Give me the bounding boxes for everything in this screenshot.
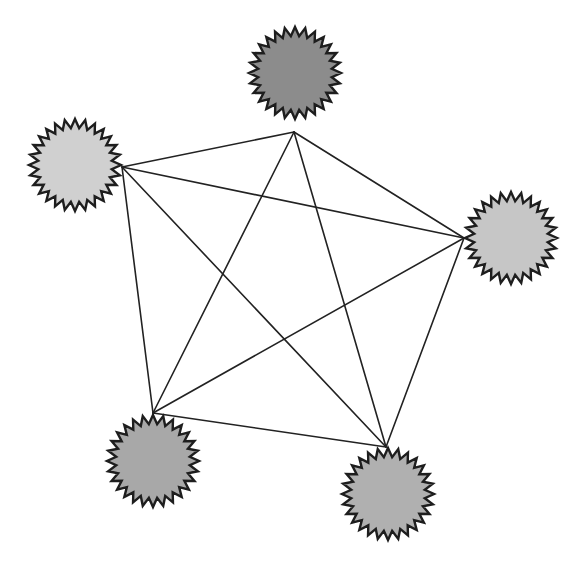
starburst-node-icon bbox=[465, 192, 557, 284]
edge-right-to-bottom-left bbox=[153, 238, 464, 413]
nodes-layer bbox=[29, 27, 557, 540]
edge-left-to-bottom-right bbox=[122, 167, 386, 447]
edge-left-to-bottom-left bbox=[122, 167, 153, 413]
edge-top-to-bottom-left bbox=[153, 132, 294, 413]
edge-right-to-bottom-right bbox=[386, 238, 464, 447]
starburst-node-icon bbox=[342, 448, 434, 540]
edges-layer bbox=[122, 132, 464, 447]
node-bottom-left bbox=[107, 415, 199, 507]
node-top bbox=[249, 27, 341, 119]
node-left bbox=[29, 119, 121, 211]
complete-graph-diagram bbox=[0, 0, 588, 580]
edge-left-to-right bbox=[122, 167, 464, 238]
edge-top-to-left bbox=[122, 132, 294, 167]
starburst-node-icon bbox=[249, 27, 341, 119]
node-right bbox=[465, 192, 557, 284]
node-bottom-right bbox=[342, 448, 434, 540]
starburst-node-icon bbox=[107, 415, 199, 507]
starburst-node-icon bbox=[29, 119, 121, 211]
